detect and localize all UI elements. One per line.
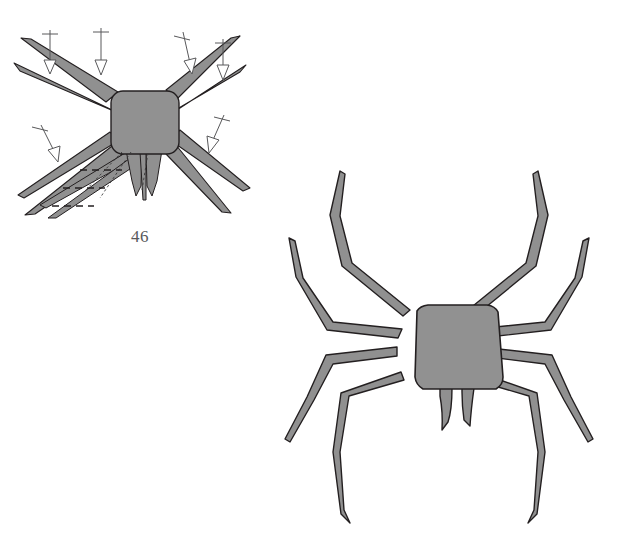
arrow-crossbar (32, 127, 48, 131)
figure-habitus-group (285, 171, 593, 523)
arrow-shaft (183, 32, 190, 63)
arrow-shaft (41, 125, 54, 151)
figure-habitus-fang-left (440, 388, 452, 430)
figure-habitus-body (415, 305, 503, 389)
plate-canvas (0, 0, 635, 547)
figure-46-fang-left (126, 150, 142, 196)
figure-46-underlegs (40, 150, 139, 218)
figure-46-annotation-arrow-5 (207, 115, 230, 153)
figure-46-group (14, 28, 250, 218)
figure-46-annotation-arrow-3 (174, 32, 196, 74)
arrow-head (44, 60, 56, 74)
figure-46-fang-right (146, 150, 162, 196)
arrow-head (48, 146, 60, 162)
figure-habitus-fang-right (462, 388, 474, 426)
figure-habitus-leg-left-4 (333, 372, 404, 523)
arrow-shaft (213, 115, 224, 140)
figure-habitus-leg-right-4 (474, 372, 545, 523)
figure-46-annotation-arrow-2 (93, 28, 109, 75)
arrow-head (207, 136, 219, 153)
arrow-head (95, 60, 107, 75)
figure-plate: 46 (0, 0, 635, 547)
figure-46-number-label: 46 (131, 228, 149, 245)
figure-habitus-fangs (440, 388, 474, 430)
figure-46-annotation-arrow-6 (32, 125, 60, 162)
figure-46-body (111, 91, 179, 154)
arrow-crossbar (174, 36, 190, 40)
figure-habitus-leg-left-1 (330, 171, 410, 316)
figure-46-leg-right-1 (166, 36, 240, 100)
figure-habitus-leg-right-1 (468, 171, 548, 316)
